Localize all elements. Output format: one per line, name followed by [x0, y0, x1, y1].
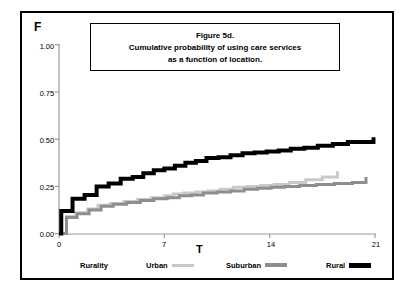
legend-label-suburban: Suburban — [226, 261, 261, 270]
legend-item-suburban[interactable]: Suburban — [226, 261, 287, 270]
axes-group — [55, 44, 376, 238]
title-line-3: as a function of location. — [168, 54, 262, 65]
legend-title: Rurality — [80, 261, 108, 270]
legend-item-rural[interactable]: Rural — [326, 261, 371, 270]
figure-container: F T 1.00 0.75 0.50 0.25 0.00 0 7 14 21 — [0, 0, 411, 298]
legend-swatch-rural — [349, 263, 371, 268]
legend: Rurality Urban Suburban Rural — [26, 258, 386, 272]
legend-item-urban[interactable]: Urban — [146, 261, 194, 270]
series-line-urban — [59, 171, 337, 233]
title-line-1: Figure 5d. — [196, 30, 234, 41]
title-line-2: Cumulative probability of using care ser… — [129, 42, 302, 53]
legend-label-rural: Rural — [326, 261, 345, 270]
legend-label-urban: Urban — [146, 261, 168, 270]
data-series-group — [59, 137, 374, 233]
legend-swatch-urban — [172, 264, 194, 267]
x-tick-marks — [59, 234, 375, 238]
chart-title-box: Figure 5d. Cumulative probability of usi… — [90, 23, 340, 71]
legend-swatch-suburban — [265, 263, 287, 267]
